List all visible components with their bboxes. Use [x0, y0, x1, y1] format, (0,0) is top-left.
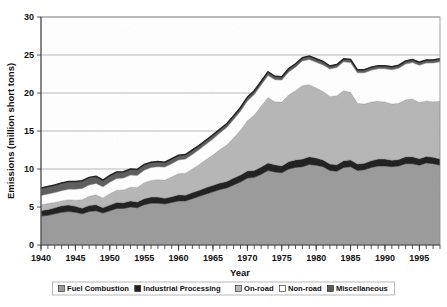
legend-swatch	[327, 286, 333, 292]
scan-grain	[41, 17, 440, 245]
legend-item-industrial-processing[interactable]: Industrial Processing	[135, 284, 221, 293]
chart-legend: Fuel CombustionIndustrial ProcessingOn-r…	[52, 282, 394, 295]
x-axis-title: Year	[230, 267, 250, 278]
legend-label: Fuel Combustion	[67, 284, 129, 293]
legend-label: On-road	[244, 284, 274, 293]
y-tick-label: 15	[24, 126, 34, 136]
x-tick-label: 1990	[375, 253, 395, 263]
legend-swatch	[235, 286, 241, 292]
x-tick-label: 1940	[31, 253, 51, 263]
y-tick-label: 5	[29, 202, 34, 212]
legend-label: Industrial Processing	[143, 284, 221, 293]
x-tick-label: 1965	[203, 253, 223, 263]
x-tick-label: 1960	[169, 253, 189, 263]
legend-item-on-road[interactable]: On-road	[235, 284, 273, 293]
legend-label: Miscellaneous	[336, 284, 388, 293]
x-tick-label: 1975	[272, 253, 292, 263]
x-tick-label: 1955	[134, 253, 154, 263]
x-tick-label: 1950	[100, 253, 120, 263]
legend-item-miscellaneous[interactable]: Miscellaneous	[327, 284, 388, 293]
x-tick-label: 1945	[65, 253, 85, 263]
x-tick-label: 1980	[306, 253, 326, 263]
legend-swatch	[279, 286, 285, 292]
y-tick-label: 20	[24, 88, 34, 98]
legend-swatch	[58, 286, 64, 292]
legend-swatch	[135, 286, 141, 292]
x-tick-label: 1985	[341, 253, 361, 263]
legend-label: Non-road	[288, 284, 322, 293]
emissions-stacked-area-chart: 051015202530 194019451950195519601965197…	[0, 0, 447, 307]
x-tick-label: 1995	[409, 253, 429, 263]
y-tick-label: 30	[24, 12, 34, 22]
legend-item-fuel-combustion[interactable]: Fuel Combustion	[58, 284, 129, 293]
y-axis-title: Emissions (million short tons)	[5, 63, 16, 199]
y-tick-label: 10	[24, 164, 34, 174]
x-tick-label: 1970	[237, 253, 257, 263]
y-tick-label: 25	[24, 50, 34, 60]
y-tick-label: 0	[29, 240, 34, 250]
plot-area	[41, 17, 440, 245]
